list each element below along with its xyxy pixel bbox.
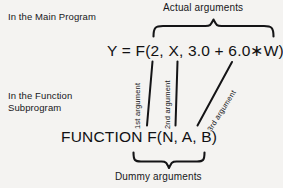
function-subprogram-label: In the Function Subprogram	[8, 90, 72, 113]
connector-line-2nd-argument	[176, 62, 178, 126]
actual-arguments-brace	[154, 20, 274, 37]
dummy-arguments-brace	[134, 153, 205, 169]
fortran-arguments-figure: Actual arguments In the Main Program In …	[0, 0, 283, 188]
actual-arguments-caption: Actual arguments	[163, 2, 243, 13]
connector-label-2nd-argument: 2nd argument	[163, 80, 172, 129]
connector-label-3rd-argument: 3rd argument	[205, 88, 238, 133]
function-declaration-text: FUNCTION F(N, A, B)	[61, 128, 217, 146]
main-program-label: In the Main Program	[8, 11, 96, 23]
connector-label-1st-argument: 1st argument	[133, 83, 142, 129]
call-statement-text: Y = F(2, X, 3.0 + 6.0∗W)	[107, 42, 283, 60]
connector-line-1st-argument	[147, 62, 153, 126]
dummy-arguments-caption: Dummy arguments	[115, 171, 202, 182]
